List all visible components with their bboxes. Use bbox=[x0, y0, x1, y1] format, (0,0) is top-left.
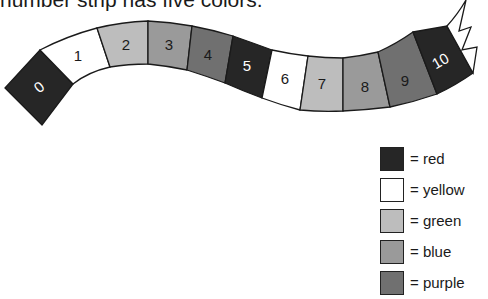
legend-item-purple: = purple bbox=[380, 270, 465, 295]
strip-segments: 012345678910 bbox=[5, 21, 473, 125]
blue-swatch bbox=[380, 240, 404, 264]
legend-label: = yellow bbox=[410, 181, 465, 198]
legend-label: = purple bbox=[410, 274, 465, 291]
legend-label: = red bbox=[410, 150, 445, 167]
green-swatch bbox=[380, 209, 404, 233]
segment-number-label: 7 bbox=[318, 75, 326, 92]
yellow-swatch bbox=[380, 178, 404, 202]
legend-label: = green bbox=[410, 212, 461, 229]
legend-label: = blue bbox=[410, 243, 451, 260]
purple-swatch bbox=[380, 271, 404, 295]
segment-number-label: 8 bbox=[361, 78, 369, 95]
red-swatch bbox=[380, 147, 404, 171]
legend-item-blue: = blue bbox=[380, 239, 465, 264]
legend-item-green: = green bbox=[380, 208, 465, 233]
segment-number-label: 3 bbox=[165, 36, 173, 53]
segment-number-label: 6 bbox=[281, 70, 289, 87]
segment-number-label: 4 bbox=[204, 46, 212, 63]
segment-number-label: 9 bbox=[401, 72, 409, 89]
legend-item-yellow: = yellow bbox=[380, 177, 465, 202]
color-legend: = red= yellow= green= blue= purple bbox=[380, 146, 465, 299]
segment-number-label: 5 bbox=[243, 57, 251, 74]
segment-number-label: 2 bbox=[122, 36, 130, 53]
legend-item-red: = red bbox=[380, 146, 465, 171]
segment-number-label: 1 bbox=[74, 47, 82, 64]
